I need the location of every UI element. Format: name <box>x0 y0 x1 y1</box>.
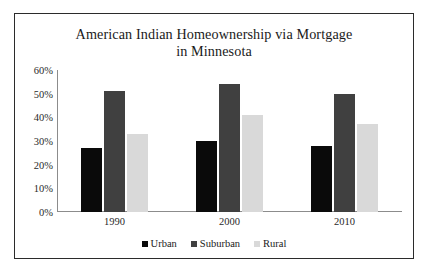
legend-label: Rural <box>263 238 286 249</box>
bar-suburban-2010 <box>334 94 355 212</box>
y-tick-label: 10% <box>19 183 53 194</box>
bar-suburban-2000 <box>219 84 240 212</box>
bar-group <box>287 70 402 212</box>
y-axis-tick-labels: 0%10%20%30%40%50%60% <box>15 70 53 212</box>
legend-swatch-icon <box>254 241 260 247</box>
y-tick-label: 60% <box>19 65 53 76</box>
chart-frame: American Indian Homeownership via Mortga… <box>14 13 414 259</box>
chart-title: American Indian Homeownership via Mortga… <box>15 26 413 60</box>
legend-item-urban[interactable]: Urban <box>142 238 177 249</box>
x-tick-label-2000: 2000 <box>219 216 240 227</box>
bar-suburban-1990 <box>104 91 125 212</box>
legend-swatch-icon <box>191 241 197 247</box>
legend-label: Urban <box>151 238 177 249</box>
bar-group <box>57 70 172 212</box>
legend-item-suburban[interactable]: Suburban <box>191 238 240 249</box>
x-tick-label-2010: 2010 <box>334 216 355 227</box>
bar-rural-2010 <box>357 124 378 212</box>
legend-item-rural[interactable]: Rural <box>254 238 286 249</box>
bar-urban-1990 <box>81 148 102 212</box>
bar-urban-2010 <box>311 146 332 212</box>
bar-rural-2000 <box>242 115 263 212</box>
bar-group <box>172 70 287 212</box>
legend-swatch-icon <box>142 241 148 247</box>
y-tick-label: 20% <box>19 159 53 170</box>
plot-area <box>57 70 402 212</box>
y-tick-label: 40% <box>19 112 53 123</box>
legend-label: Suburban <box>200 238 240 249</box>
chart-title-line-2: in Minnesota <box>15 43 413 60</box>
y-tick-label: 30% <box>19 136 53 147</box>
x-tick-label-1990: 1990 <box>104 216 125 227</box>
y-tick-label: 0% <box>19 207 53 218</box>
chart-title-line-1: American Indian Homeownership via Mortga… <box>15 26 413 43</box>
chart-legend: UrbanSuburbanRural <box>15 238 413 249</box>
bar-urban-2000 <box>196 141 217 212</box>
bar-rural-1990 <box>127 134 148 212</box>
y-tick-label: 50% <box>19 88 53 99</box>
